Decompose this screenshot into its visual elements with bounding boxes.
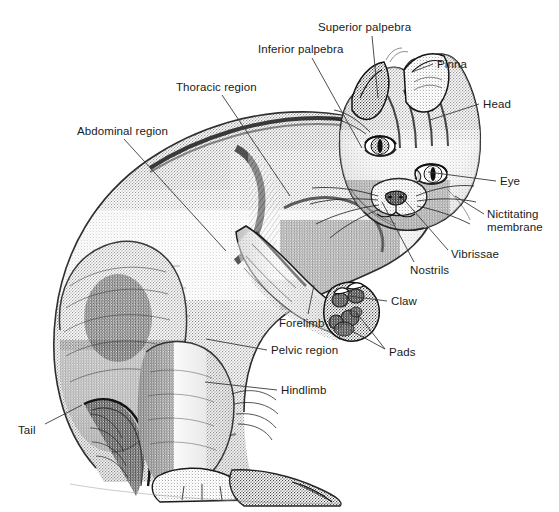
label-forelimb: Forelimb [279, 317, 325, 330]
label-thoracic-region: Thoracic region [176, 81, 257, 94]
nostril-right [399, 195, 403, 198]
label-pelvic-region: Pelvic region [271, 344, 338, 357]
cat-muzzle [371, 179, 427, 217]
label-vibrissae: Vibrissae [451, 248, 499, 261]
eye-lower [415, 164, 447, 184]
label-abdominal-region: Abdominal region [77, 125, 168, 138]
anatomy-figure: Superior palpebraInferior palpebraPinnaH… [0, 0, 559, 512]
label-superior-palpebra: Superior palpebra [318, 21, 411, 34]
label-pinna: Pinna [437, 58, 467, 71]
label-hindlimb: Hindlimb [281, 384, 327, 397]
cat-forepaw [324, 282, 380, 341]
label-inferior-palpebra: Inferior palpebra [258, 43, 343, 56]
label-claw: Claw [391, 295, 417, 308]
label-pads: Pads [389, 346, 416, 359]
eye-upper [365, 136, 396, 156]
nostril-left [388, 195, 392, 198]
label-eye: Eye [500, 175, 520, 188]
label-nictitating-membrane: Nictitating membrane [487, 208, 543, 234]
label-head: Head [483, 98, 511, 111]
label-nostrils: Nostrils [410, 264, 449, 277]
label-tail: Tail [18, 424, 36, 437]
cat-rear-foot [230, 470, 341, 506]
